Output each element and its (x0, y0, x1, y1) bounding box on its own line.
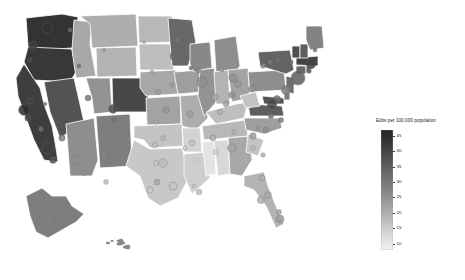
city-circle-greensboro[interactable] (256, 126, 260, 130)
state-vermont[interactable] (292, 46, 300, 58)
city-circle-syracuse[interactable] (276, 58, 280, 62)
city-circle-madison[interactable] (189, 66, 193, 70)
city-circle-el-paso[interactable] (104, 180, 109, 185)
tick-mark (393, 136, 395, 137)
city-circle-wichita[interactable] (154, 120, 158, 124)
tick-mark (393, 167, 395, 168)
state-texas[interactable] (126, 140, 190, 206)
city-circle-raleigh[interactable] (263, 127, 269, 133)
city-circle-cincinnati[interactable] (223, 101, 229, 107)
city-circle-nashville[interactable] (210, 135, 216, 141)
city-circle-oklahoma-city[interactable] (152, 142, 158, 148)
tick-mark (393, 213, 395, 214)
city-circle-portland-me[interactable] (313, 48, 317, 52)
city-circle-st-louis[interactable] (187, 111, 194, 118)
city-circle-bismarck[interactable] (143, 41, 146, 44)
state-arizona[interactable] (66, 118, 98, 176)
state-alabama[interactable] (214, 140, 230, 176)
city-circle-fort-worth[interactable] (153, 160, 158, 165)
city-circle-charlotte[interactable] (250, 133, 256, 139)
city-circle-virginia-beach[interactable] (278, 117, 283, 122)
tick-mark (393, 228, 395, 229)
city-circle-colorado-springs[interactable] (112, 118, 117, 123)
city-circle-omaha[interactable] (155, 89, 160, 94)
city-circle-grand-rapids[interactable] (220, 68, 224, 72)
city-circle-cleveland[interactable] (235, 81, 242, 88)
city-circle-los-angeles[interactable] (42, 142, 54, 154)
city-circle-charleston[interactable] (261, 153, 265, 157)
city-circle-washington-dc[interactable] (267, 99, 277, 109)
city-circle-milwaukee[interactable] (195, 67, 201, 73)
state-wyoming[interactable] (96, 47, 137, 77)
city-circle-reno[interactable] (43, 102, 47, 106)
city-circle-fresno[interactable] (39, 127, 44, 132)
state-north-dakota[interactable] (138, 16, 173, 43)
city-circle-anchorage[interactable] (53, 216, 57, 220)
city-circle-des-moines[interactable] (170, 83, 174, 87)
city-circle-sacramento[interactable] (27, 98, 33, 104)
state-south-dakota[interactable] (139, 44, 174, 70)
city-circle-philadelphia[interactable] (281, 85, 290, 94)
city-circle-kansas-city[interactable] (163, 107, 169, 113)
state-maine[interactable] (306, 26, 324, 50)
city-circle-denver[interactable] (109, 105, 118, 114)
city-circle-jackson[interactable] (195, 158, 199, 162)
city-circle-boston[interactable] (306, 59, 316, 69)
city-circle-providence[interactable] (307, 69, 312, 74)
city-circle-minneapolis[interactable] (170, 51, 180, 61)
city-circle-louisville[interactable] (217, 109, 222, 114)
city-circle-jacksonville[interactable] (259, 175, 265, 181)
city-circle-orlando[interactable] (265, 192, 272, 199)
state-new-hampshire[interactable] (300, 44, 308, 58)
city-circle-seattle[interactable] (42, 23, 52, 33)
state-new-york[interactable] (258, 50, 294, 74)
city-circle-portland[interactable] (29, 42, 38, 51)
state-wisconsin[interactable] (190, 42, 212, 72)
city-circle-dallas[interactable] (159, 159, 167, 167)
city-circle-spokane[interactable] (68, 28, 72, 32)
city-circle-san-jose[interactable] (25, 115, 31, 121)
city-circle-fort-lauderdale[interactable] (277, 210, 282, 215)
city-circle-duluth[interactable] (175, 38, 178, 41)
city-circle-knoxville[interactable] (232, 130, 236, 134)
city-circle-newark[interactable] (289, 79, 295, 85)
city-circle-boise[interactable] (77, 64, 81, 68)
city-circle-honolulu[interactable] (126, 245, 130, 249)
city-circle-rochester[interactable] (268, 60, 272, 64)
city-circle-las-vegas[interactable] (59, 135, 65, 141)
city-circle-baton-rouge[interactable] (192, 184, 196, 188)
city-circle-detroit[interactable] (229, 74, 237, 82)
city-circle-san-antonio[interactable] (147, 187, 153, 193)
city-circle-tucson[interactable] (82, 171, 87, 176)
city-circle-indianapolis[interactable] (212, 94, 218, 100)
city-circle-columbia[interactable] (251, 146, 255, 150)
city-circle-hartford[interactable] (299, 67, 303, 71)
city-circle-richmond[interactable] (268, 113, 273, 118)
city-circle-new-orleans[interactable] (196, 189, 202, 195)
city-circle-tulsa[interactable] (161, 136, 166, 141)
city-circle-san-diego[interactable] (50, 157, 57, 164)
city-circle-eugene[interactable] (28, 58, 32, 62)
city-circle-tampa[interactable] (257, 196, 264, 203)
city-circle-san-francisco[interactable] (19, 105, 30, 116)
city-circle-pittsburgh[interactable] (249, 86, 255, 92)
city-circle-albany[interactable] (289, 60, 293, 64)
state-alaska[interactable] (26, 188, 84, 238)
city-circle-atlanta[interactable] (228, 144, 237, 153)
city-circle-salt-lake-city[interactable] (85, 95, 91, 101)
city-circle-memphis[interactable] (189, 140, 195, 146)
city-circle-little-rock[interactable] (183, 146, 187, 150)
city-circle-billings[interactable] (102, 48, 105, 51)
city-circle-austin[interactable] (154, 179, 160, 185)
city-circle-miami[interactable] (276, 215, 284, 223)
city-circle-houston[interactable] (169, 182, 177, 190)
city-circle-chicago[interactable] (197, 77, 207, 87)
state-north-carolina[interactable] (244, 118, 282, 134)
city-circle-phoenix[interactable] (72, 156, 80, 164)
city-circle-sioux-falls[interactable] (150, 70, 154, 74)
city-circle-albuquerque[interactable] (101, 151, 106, 156)
city-circle-birmingham[interactable] (213, 149, 218, 154)
city-circle-buffalo[interactable] (261, 64, 266, 69)
city-circle-columbus[interactable] (229, 92, 235, 98)
tick-mark (393, 197, 395, 198)
